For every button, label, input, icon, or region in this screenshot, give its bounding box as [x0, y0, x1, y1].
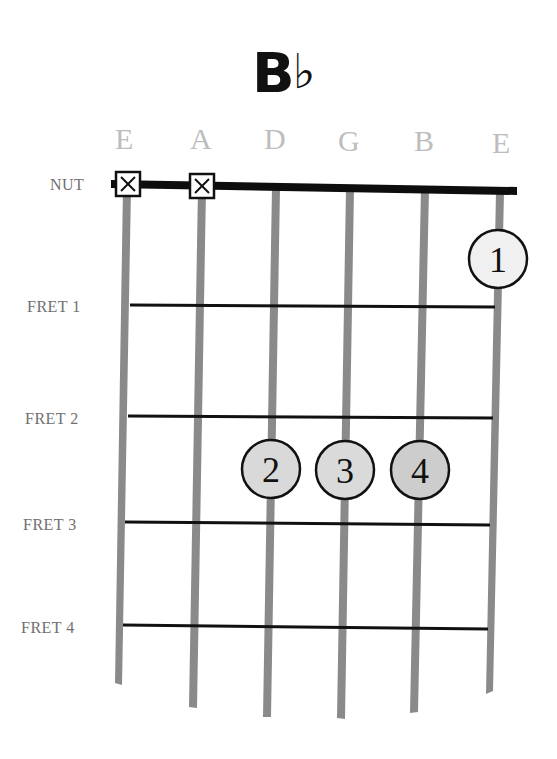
- fret-2: [128, 416, 493, 418]
- fret-label-1: FRET 1: [27, 298, 81, 315]
- finger-number: 4: [411, 451, 429, 491]
- mute-marker-a: [190, 174, 214, 198]
- fret-label-4: FRET 4: [21, 619, 75, 636]
- string-label-g: G: [338, 124, 360, 157]
- finger-number: 3: [336, 451, 354, 491]
- fret-label-3: FRET 3: [23, 516, 77, 533]
- fret-3: [125, 522, 490, 525]
- fret-label-2: FRET 2: [25, 410, 79, 427]
- finger-dot-3: 3: [316, 441, 374, 499]
- string-label-a: A: [190, 122, 212, 155]
- finger-dot-4: 4: [391, 441, 449, 499]
- string-labels: E A D G B E: [115, 122, 510, 159]
- string-label-d: D: [264, 122, 286, 155]
- fret-labels: NUT FRET 1 FRET 2 FRET 3 FRET 4: [21, 176, 84, 636]
- fret-1: [130, 305, 495, 307]
- finger-dot-2: 2: [242, 440, 300, 498]
- mute-marker-low-e: [116, 172, 140, 196]
- finger-dot-1: 1: [469, 230, 527, 288]
- strings: [115, 188, 504, 719]
- finger-number: 1: [489, 240, 507, 280]
- chord-root: B: [252, 40, 295, 105]
- string-low-e: [115, 188, 131, 685]
- string-a: [189, 188, 206, 708]
- finger-number: 2: [262, 450, 280, 490]
- string-label-low-e: E: [115, 122, 133, 155]
- string-label-high-e: E: [492, 126, 510, 159]
- string-label-b: B: [414, 124, 434, 157]
- chord-diagram: B ♭ E A D G B E NUT FRET 1 FRET 2 FRET 3…: [0, 0, 557, 759]
- nut-label: NUT: [50, 176, 84, 193]
- chord-title: B ♭: [252, 40, 316, 105]
- flat-symbol: ♭: [293, 43, 316, 99]
- nut: [111, 180, 517, 195]
- fret-4: [123, 625, 488, 629]
